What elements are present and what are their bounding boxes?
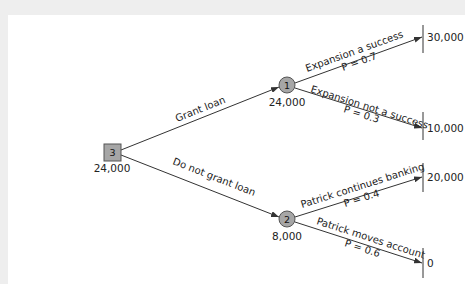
payoff-value: 0 — [427, 257, 434, 269]
node-value: 8,000 — [272, 230, 302, 242]
branch-do-not-grant-loan: Do not grant loan — [121, 155, 279, 217]
decision-tree: Grant loan Do not grant loan Expansion a… — [0, 0, 465, 284]
node-value: 24,000 — [94, 162, 131, 174]
branch-grant-loan: Grant loan — [121, 87, 279, 150]
node-id: 2 — [284, 214, 290, 225]
outcome-expansion-success: Expansion a success P = 0.7 30,000 — [295, 25, 464, 83]
outcome-patrick-continues: Patrick continues banking P = 0.4 20,000 — [295, 161, 464, 217]
node-id: 3 — [109, 147, 115, 158]
payoff-value: 10,000 — [427, 122, 464, 134]
payoff-value: 20,000 — [427, 171, 464, 183]
outcome-label: Expansion not a success — [309, 83, 429, 130]
branch-label: Grant loan — [174, 94, 227, 124]
node-value: 24,000 — [269, 96, 306, 108]
outcome-patrick-moves: Patrick moves account P = 0.6 0 — [295, 215, 434, 278]
node-id: 1 — [284, 80, 290, 91]
payoff-value: 30,000 — [427, 31, 464, 43]
outcome-expansion-not-success: Expansion not a success P = 0.3 10,000 — [295, 83, 464, 140]
